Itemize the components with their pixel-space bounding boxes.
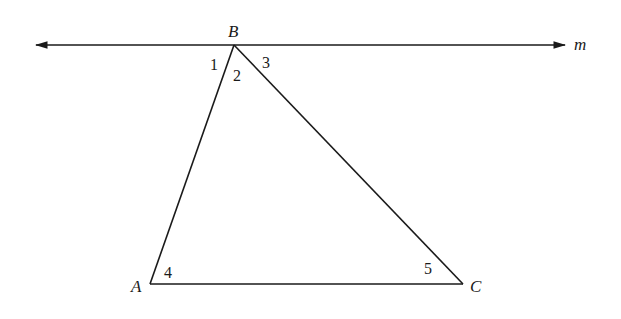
point-c-label: C [470,277,482,296]
angle-2-label: 2 [233,67,241,84]
point-a-label: A [130,277,142,296]
segment-ab [150,45,234,284]
triangle-parallel-line-diagram: m A B C 1 2 3 4 5 [0,0,621,319]
angle-5-label: 5 [424,260,432,277]
angle-4-label: 4 [164,264,172,281]
segment-bc [234,45,463,284]
angle-1-label: 1 [210,56,218,73]
angle-3-label: 3 [262,54,270,71]
line-m-label: m [574,35,586,54]
point-b-label: B [228,22,239,41]
